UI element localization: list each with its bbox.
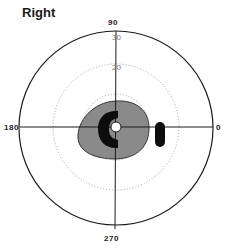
blind-spot	[155, 122, 165, 147]
visual-field-plot: 30 20	[0, 0, 228, 249]
ring-label-20: 20	[112, 63, 121, 72]
fixation-point	[111, 122, 121, 132]
ring-label-30: 30	[112, 33, 121, 42]
